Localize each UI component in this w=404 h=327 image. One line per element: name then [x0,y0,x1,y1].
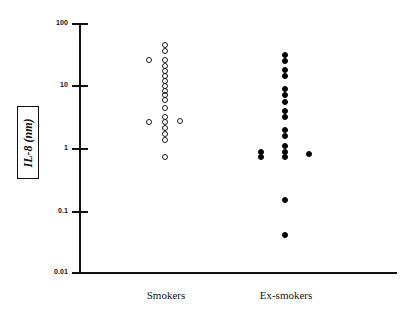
data-point-ex-smokers [282,154,288,160]
x-axis-category-label: Ex-smokers [260,289,313,301]
data-point-ex-smokers [258,154,264,160]
data-point-smokers [162,48,168,54]
y-axis-tick [72,272,88,274]
y-axis-tick-label: 0.01 [54,268,68,275]
data-point-ex-smokers [282,197,288,203]
y-axis-tick-label-wrap: 0.1 [0,207,68,217]
y-axis-tick [72,211,88,213]
x-axis-line [79,272,397,274]
data-point-smokers [162,137,168,143]
y-axis-tick [72,85,88,87]
y-axis-tick [72,23,88,25]
data-point-ex-smokers [282,133,288,139]
y-axis-tick [72,148,88,150]
y-axis-tick-label: 1 [64,144,68,151]
data-point-ex-smokers [282,232,288,238]
data-point-ex-smokers [282,92,288,98]
data-point-smokers [177,118,183,124]
data-point-smokers [162,105,168,111]
x-axis-category-label: Smokers [147,289,186,301]
y-axis-title: IL-8 (nm) [21,118,36,167]
y-axis-tick-label-wrap: 100 [0,19,68,29]
data-point-smokers [162,154,168,160]
data-point-ex-smokers [282,99,288,105]
data-point-ex-smokers [282,114,288,120]
y-axis-tick-label: 100 [56,19,68,26]
data-point-smokers [162,97,168,103]
data-point-ex-smokers [306,151,312,157]
y-axis-tick-label: 10 [60,81,68,88]
y-axis-tick-label-wrap: 10 [0,81,68,91]
data-point-ex-smokers [282,58,288,64]
y-axis-tick-label: 0.1 [58,207,68,214]
y-axis-tick-label-wrap: 0.01 [0,268,68,278]
chart-figure: 1001010.10.01 IL-8 (nm) SmokersEx-smoker… [0,0,404,327]
data-point-smokers [146,57,152,63]
data-point-smokers [146,119,152,125]
y-axis-title-box: IL-8 (nm) [17,106,39,179]
data-point-ex-smokers [282,73,288,79]
